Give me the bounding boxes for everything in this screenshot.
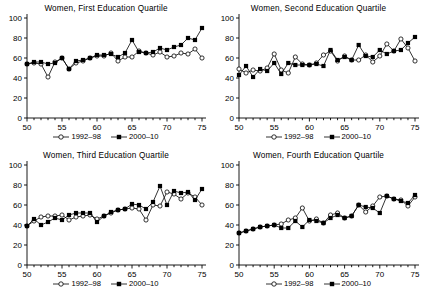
data-point-marker bbox=[88, 211, 92, 215]
open-circle-marker-icon bbox=[266, 133, 282, 141]
y-tick-label: 60 bbox=[13, 201, 22, 210]
data-point-marker bbox=[158, 204, 162, 208]
data-point-marker bbox=[193, 47, 197, 51]
x-tick-label: 70 bbox=[375, 123, 384, 132]
data-point-marker bbox=[258, 67, 262, 71]
data-point-marker bbox=[165, 190, 169, 194]
data-point-marker bbox=[25, 224, 29, 228]
y-tick-label: 20 bbox=[13, 241, 22, 250]
data-point-marker bbox=[67, 218, 71, 222]
data-point-marker bbox=[378, 54, 382, 58]
data-point-marker bbox=[265, 69, 269, 73]
data-point-marker bbox=[413, 35, 417, 39]
data-point-marker bbox=[123, 207, 127, 211]
data-point-marker bbox=[88, 56, 92, 60]
x-tick-label: 60 bbox=[305, 270, 314, 279]
y-tick-label: 0 bbox=[230, 114, 235, 123]
data-point-marker bbox=[357, 43, 361, 47]
x-tick-label: 70 bbox=[163, 123, 172, 132]
legend-entry-2000-10: 2000–10 bbox=[111, 280, 159, 288]
data-point-marker bbox=[392, 197, 396, 201]
data-point-marker bbox=[46, 62, 50, 66]
data-point-marker bbox=[371, 206, 375, 210]
data-point-marker bbox=[137, 207, 141, 211]
data-point-marker bbox=[81, 58, 85, 62]
data-point-marker bbox=[321, 221, 325, 225]
data-point-marker bbox=[399, 48, 403, 52]
y-tick-label: 60 bbox=[13, 54, 22, 63]
data-point-marker bbox=[364, 210, 368, 214]
y-tick-label: 20 bbox=[13, 94, 22, 103]
x-tick-label: 60 bbox=[93, 270, 102, 279]
data-point-marker bbox=[364, 205, 368, 209]
data-point-marker bbox=[399, 199, 403, 203]
plot-area: 020406080100505560657075 bbox=[212, 147, 425, 294]
data-point-marker bbox=[307, 218, 311, 222]
legend: 1992–98 2000–10 bbox=[212, 280, 425, 288]
legend-label: 1992–98 bbox=[71, 133, 101, 141]
data-point-marker bbox=[165, 203, 169, 207]
data-point-marker bbox=[137, 203, 141, 207]
data-point-marker bbox=[53, 216, 57, 220]
legend-label: 1992–98 bbox=[284, 133, 314, 141]
chart-grid: Women, First Education Quartile 02040608… bbox=[0, 0, 425, 294]
data-point-marker bbox=[406, 46, 410, 50]
panel-third-quartile: Women, Third Education Quartile 02040608… bbox=[0, 147, 212, 294]
data-point-marker bbox=[67, 213, 71, 217]
data-point-marker bbox=[32, 217, 36, 221]
data-point-marker bbox=[123, 55, 127, 59]
data-point-marker bbox=[60, 56, 64, 60]
data-point-marker bbox=[144, 218, 148, 222]
data-point-marker bbox=[335, 58, 339, 62]
data-point-marker bbox=[179, 51, 183, 55]
data-point-marker bbox=[293, 219, 297, 223]
x-tick-label: 50 bbox=[235, 270, 244, 279]
x-tick-label: 75 bbox=[411, 123, 420, 132]
legend-entry-1992-98: 1992–98 bbox=[266, 280, 314, 288]
data-point-marker bbox=[200, 203, 204, 207]
y-tick-label: 0 bbox=[230, 261, 235, 270]
data-point-marker bbox=[357, 58, 361, 62]
data-point-marker bbox=[144, 207, 148, 211]
y-tick-label: 40 bbox=[225, 74, 234, 83]
plot-svg: 020406080100505560657075 bbox=[0, 0, 212, 147]
legend-label: 1992–98 bbox=[284, 280, 314, 288]
data-point-marker bbox=[237, 67, 241, 71]
x-tick-label: 70 bbox=[163, 270, 172, 279]
data-point-marker bbox=[300, 225, 304, 229]
data-point-marker bbox=[413, 193, 417, 197]
data-point-marker bbox=[116, 55, 120, 59]
data-point-marker bbox=[335, 213, 339, 217]
data-point-marker bbox=[399, 37, 403, 41]
data-point-marker bbox=[102, 53, 106, 57]
data-point-marker bbox=[39, 215, 43, 219]
plot-svg: 020406080100505560657075 bbox=[212, 0, 425, 147]
y-tick-label: 100 bbox=[221, 14, 235, 23]
x-tick-label: 55 bbox=[58, 270, 67, 279]
data-point-marker bbox=[200, 187, 204, 191]
data-point-marker bbox=[165, 55, 169, 59]
data-point-marker bbox=[286, 71, 290, 75]
data-point-marker bbox=[357, 203, 361, 207]
data-point-marker bbox=[314, 219, 318, 223]
plot-area: 020406080100505560657075 bbox=[0, 147, 212, 294]
data-point-marker bbox=[378, 48, 382, 52]
data-point-marker bbox=[186, 36, 190, 40]
data-point-marker bbox=[300, 206, 304, 210]
y-tick-label: 80 bbox=[225, 181, 234, 190]
data-point-marker bbox=[179, 43, 183, 47]
data-point-marker bbox=[364, 54, 368, 58]
data-point-marker bbox=[314, 62, 318, 66]
data-point-marker bbox=[272, 61, 276, 65]
legend: 1992–98 2000–10 bbox=[0, 133, 212, 141]
y-tick-label: 100 bbox=[221, 161, 235, 170]
legend-entry-2000-10: 2000–10 bbox=[324, 133, 372, 141]
filled-square-marker-icon bbox=[111, 280, 127, 288]
data-point-marker bbox=[179, 197, 183, 201]
data-point-marker bbox=[32, 60, 36, 64]
data-point-marker bbox=[151, 50, 155, 54]
data-point-marker bbox=[307, 63, 311, 67]
data-point-marker bbox=[186, 52, 190, 56]
data-point-marker bbox=[286, 218, 290, 222]
data-point-marker bbox=[300, 63, 304, 67]
